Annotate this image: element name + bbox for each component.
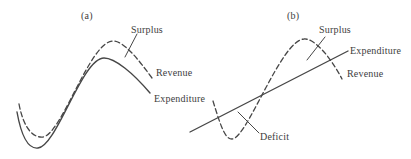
panel-a-surplus-label: Surplus xyxy=(131,24,163,36)
panel-b-revenue-curve xyxy=(213,39,342,139)
panel-a-expenditure-label: Expenditure xyxy=(154,93,205,105)
panel-b-surplus-label: Surplus xyxy=(319,24,351,36)
panel-b-tag: (b) xyxy=(287,10,299,22)
panel-a-tag: (a) xyxy=(81,10,93,22)
panel-b-deficit-pointer-line xyxy=(238,112,259,133)
panel-a-surplus-pointer-line xyxy=(125,34,137,57)
panel-b-expenditure-line xyxy=(190,51,348,132)
panel-a-revenue-label: Revenue xyxy=(156,67,192,79)
panel-b-expenditure-label: Expenditure xyxy=(350,45,401,57)
revenue-expenditure-figure: (a) Surplus Revenue Expenditure (b) Surp… xyxy=(0,0,411,159)
panel-b-deficit-label: Deficit xyxy=(260,131,289,143)
panel-b-revenue-label: Revenue xyxy=(347,68,383,80)
panel-a-expenditure-curve xyxy=(17,58,150,148)
panel-a-revenue-curve xyxy=(19,41,152,137)
